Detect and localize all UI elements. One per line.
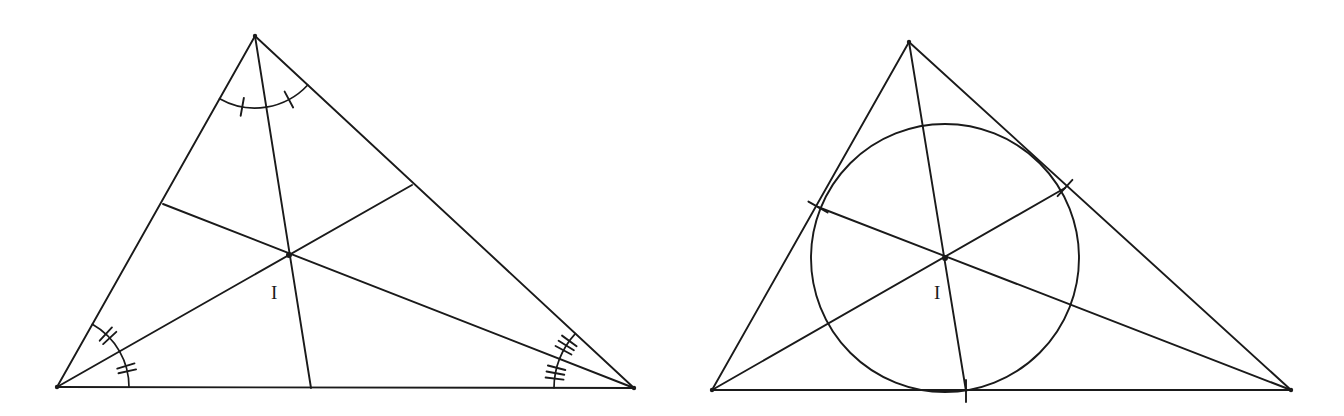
triangle-vertex-dot	[55, 385, 59, 389]
incenter-label-I: I	[934, 282, 940, 303]
triangle-side-right	[255, 36, 634, 388]
bisector-from-bottom-right	[163, 204, 634, 388]
bottom-right-angle-ticks-1	[546, 377, 564, 379]
triangle-side-left	[712, 42, 909, 390]
angle-bisector-lines	[57, 36, 634, 388]
triangle-side-right	[909, 42, 1291, 390]
triangle-vertex-dot	[710, 388, 714, 392]
triangle-side-left	[57, 36, 255, 387]
triangle-outline	[57, 36, 634, 388]
angle-bisector-lines	[712, 42, 1291, 391]
bisector-from-bottom-right	[818, 207, 1291, 390]
incenter-point	[710, 40, 1293, 392]
geometry-figure: I I	[0, 0, 1344, 416]
left-diagram-angle-bisectors: I	[55, 34, 636, 390]
triangle-vertex-dot	[253, 34, 257, 38]
triangle-side-base	[57, 387, 634, 388]
triangle-vertex-dot	[907, 40, 911, 44]
bisector-from-apex	[909, 42, 966, 391]
bisector-from-bottom-left	[57, 185, 412, 387]
bisector-from-bottom-left	[712, 188, 1065, 390]
bisector-from-apex	[255, 36, 311, 388]
figure-canvas: I I	[0, 0, 1344, 416]
incenter-dot	[286, 252, 292, 258]
apex-angle-ticks-2	[285, 92, 293, 108]
triangle-vertex-dot	[1289, 388, 1293, 392]
bottom-left-angle-arc-1	[92, 324, 119, 351]
triangle-outline	[712, 42, 1291, 390]
incenter-dot	[942, 255, 948, 261]
right-diagram-incircle: I	[710, 40, 1293, 402]
incenter-point	[55, 34, 636, 390]
angle-arc-marks	[92, 85, 576, 388]
triangle-vertex-dot	[632, 386, 636, 390]
bottom-left-angle-arc-2	[120, 351, 129, 387]
incenter-label-I: I	[271, 282, 277, 303]
